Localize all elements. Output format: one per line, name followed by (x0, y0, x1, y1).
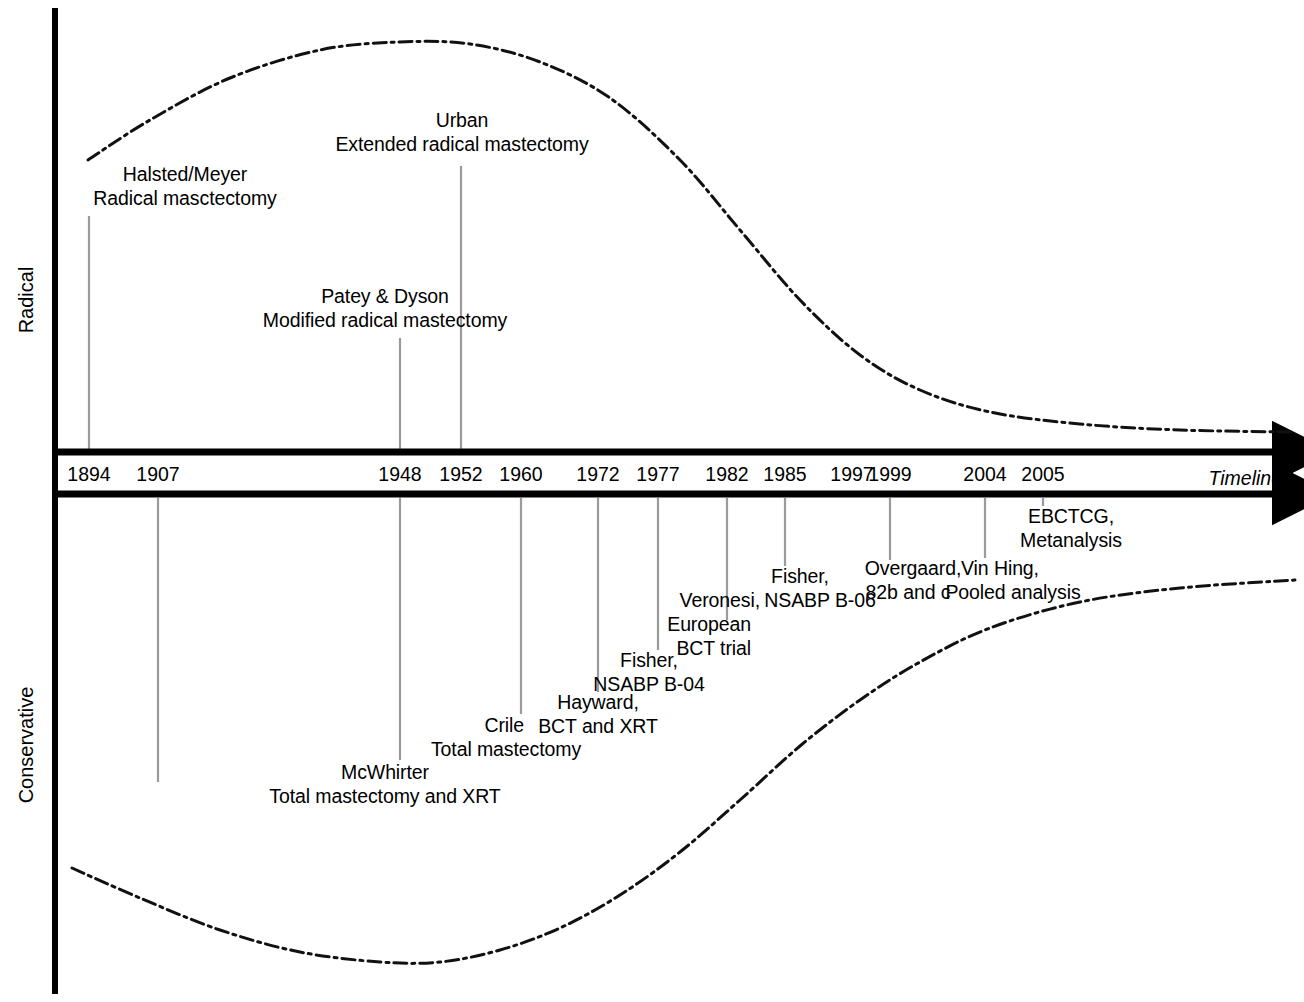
year-tick-1999: 1999 (868, 464, 911, 484)
year-tick-2004: 2004 (963, 464, 1006, 484)
year-tick-1985: 1985 (763, 464, 806, 484)
event-label-vin-hing-line2: Pooled analysis (945, 580, 1080, 604)
year-tick-1952: 1952 (439, 464, 482, 484)
axis-label-conservative: Conservative (15, 687, 38, 804)
event-label-mcwhirter-line1: McWhirter (341, 760, 429, 784)
year-tick-1948: 1948 (378, 464, 421, 484)
event-label-veronesi-line2: European (667, 612, 751, 636)
event-label-mcwhirter-line2: Total mastectomy and XRT (269, 784, 500, 808)
year-tick-1982: 1982 (705, 464, 748, 484)
figure-canvas: Radical Conservative Timeline 1894190719… (0, 0, 1304, 1002)
timeline-figure-svg (0, 0, 1304, 1002)
event-label-veronesi-line3: BCT trial (676, 636, 751, 660)
year-tick-1997: 1997 (830, 464, 873, 484)
event-label-vin-hing-line1: Vin Hing, (961, 556, 1039, 580)
year-tick-1907: 1907 (136, 464, 179, 484)
event-label-veronesi-line1: Veronesi, (680, 588, 760, 612)
year-tick-1972: 1972 (576, 464, 619, 484)
event-label-hayward-line2: BCT and XRT (538, 714, 658, 738)
event-label-overgaard-line1: Overgaard, (865, 556, 962, 580)
event-label-halsted-meyer-line1: Halsted/Meyer (123, 162, 247, 186)
year-tick-2005: 2005 (1021, 464, 1064, 484)
event-label-ebctcg-line1: EBCTCG, (1028, 504, 1114, 528)
event-label-patey-dyson-line2: Modified radical mastectomy (263, 308, 507, 332)
event-label-crile-line2: Total mastectomy (431, 737, 581, 761)
year-tick-1894: 1894 (67, 464, 110, 484)
event-label-ebctcg-line2: Metanalysis (1020, 528, 1122, 552)
radical-trend-curve (88, 41, 1295, 432)
event-label-urban-line2: Extended radical mastectomy (335, 132, 588, 156)
event-label-crile-line1: Crile (484, 713, 524, 737)
event-label-patey-dyson-line1: Patey & Dyson (321, 284, 449, 308)
year-tick-1977: 1977 (636, 464, 679, 484)
event-label-fisher-b06-line2: NSABP B-06 (764, 588, 875, 612)
axis-label-radical: Radical (15, 267, 38, 334)
event-label-overgaard-line2: 82b and c (866, 580, 951, 604)
axis-label-timeline: Timeline (1208, 467, 1282, 490)
year-tick-1960: 1960 (499, 464, 542, 484)
event-label-fisher-b06-line1: Fisher, (771, 564, 829, 588)
event-label-urban-line1: Urban (436, 108, 489, 132)
event-label-fisher-b04-line1: Fisher, (620, 648, 678, 672)
event-label-halsted-meyer-line2: Radical masctectomy (93, 186, 276, 210)
conservative-leader-lines (158, 498, 1043, 782)
event-label-fisher-b04-line2: NSABP B-04 (593, 672, 704, 696)
